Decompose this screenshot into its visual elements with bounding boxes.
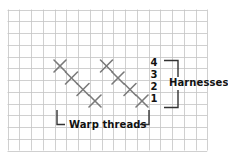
harness-number-4: 4 (149, 58, 159, 68)
left-diagonal-marks (54, 60, 101, 107)
right-diagonal-marks (101, 60, 149, 107)
harness-number-1: 1 (149, 94, 159, 104)
x-mark-icon (66, 72, 78, 84)
warp-threads-label: Warp threads (69, 120, 147, 130)
weaving-draft-diagram: 4 3 2 1 Harnesses Warp threads (0, 0, 228, 160)
thread-crossing-marks (54, 60, 148, 107)
harness-number-3: 3 (149, 70, 159, 80)
harnesses-label: Harnesses (169, 78, 228, 88)
harness-number-2: 2 (149, 82, 159, 92)
warp-bracket-left (57, 110, 65, 125)
